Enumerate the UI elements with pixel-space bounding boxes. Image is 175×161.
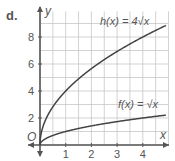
x-tick-label: 2: [88, 148, 94, 160]
x-tick-label: 4: [140, 148, 146, 160]
y-tick-label: 8: [28, 31, 34, 43]
curves: [40, 25, 166, 145]
curve-label-h: h(x) = 4√x: [100, 15, 150, 27]
y-tick-label: 6: [28, 58, 34, 70]
y-axis-arrow-down-icon: [37, 151, 43, 157]
curve-f: [40, 115, 166, 145]
y-axis-label: y: [44, 4, 52, 18]
y-tick-label: 4: [28, 85, 34, 97]
x-axis-label: x: [159, 128, 167, 142]
curve-h: [40, 25, 166, 145]
axes: [28, 6, 169, 157]
y-tick-label: 2: [28, 112, 34, 124]
tick-labels: 12342468Oxy: [27, 4, 167, 160]
x-tick-label: 3: [114, 148, 120, 160]
curve-label-f: f(x) = √x: [118, 98, 158, 110]
x-tick-label: 1: [63, 148, 69, 160]
chart: 12342468Oxy h(x) = 4√xf(x) = √x: [0, 0, 175, 161]
y-axis-arrow-up-icon: [37, 6, 43, 12]
grid: [40, 11, 169, 145]
curve-labels: h(x) = 4√xf(x) = √x: [100, 15, 158, 110]
origin-label: O: [27, 130, 36, 144]
